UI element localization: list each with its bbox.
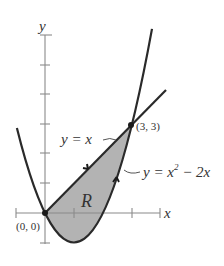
arrow-on-line-icon	[83, 164, 88, 169]
parabola-equation-rest: − 2x	[178, 164, 210, 180]
parabola-equation-main: y = x	[141, 164, 174, 180]
origin-point	[42, 210, 48, 216]
origin-label: (0, 0)	[16, 220, 40, 233]
y-axis-label: y	[37, 18, 46, 34]
intersection-label: (3, 3)	[136, 120, 160, 133]
parabola-equation-label: y = x2 − 2x	[141, 162, 211, 180]
line-label-leader	[103, 139, 116, 141]
region-label: R	[80, 191, 92, 211]
intersection-point	[128, 122, 134, 128]
region-diagram: y x y = x y = x2 − 2x R (0, 0) (3, 3)	[0, 0, 224, 266]
x-axis-label: x	[163, 205, 171, 221]
line-equation-label: y = x	[59, 131, 92, 147]
parabola-label-leader	[124, 170, 140, 173]
